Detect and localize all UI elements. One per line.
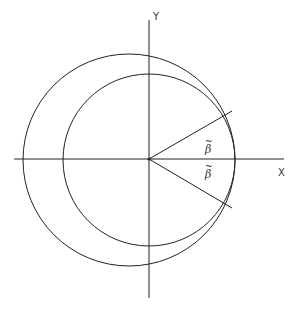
- lower-beta-label: β: [204, 168, 211, 181]
- upper-ray: [149, 111, 232, 159]
- upper-beta-label: β: [204, 143, 211, 156]
- origin-point: [148, 158, 151, 161]
- outer-circle: [23, 54, 235, 266]
- geometry-diagram: Y X ~ β ~ β: [0, 0, 297, 311]
- y-axis-label: Y: [152, 11, 160, 22]
- lower-ray: [149, 159, 232, 208]
- x-axis-label: X: [278, 167, 285, 178]
